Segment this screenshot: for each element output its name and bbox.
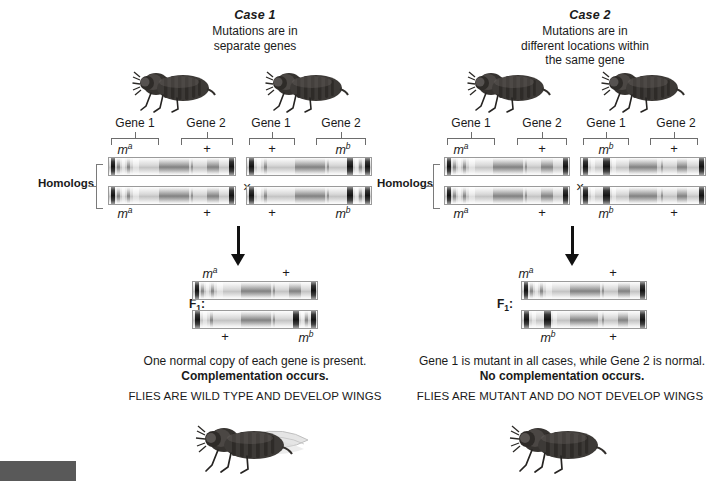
case2-left-gene1-label: Gene 1 — [440, 116, 502, 130]
case2-f1-bottom-allele-gene1: mb — [528, 329, 568, 345]
case1-subtitle-line1: Mutations are in — [130, 24, 380, 39]
footer-color-swatch — [0, 461, 76, 481]
case2-right-gene1-label: Gene 1 — [575, 116, 637, 130]
case1-right-bottom-allele-gene1: + — [252, 205, 292, 220]
case1-left-top-allele-gene2: + — [187, 141, 227, 156]
case1-right-gene2-label: Gene 2 — [310, 116, 372, 130]
case2-left-bottom-allele-gene1: ma — [441, 205, 481, 221]
offspring-fly-case2-wingless — [508, 414, 618, 480]
chromosome-case1-f1-top — [192, 281, 318, 300]
parent-fly-case2-right — [600, 62, 688, 118]
chromosome-case2-f1-bottom — [521, 310, 647, 329]
case2-left-top-allele-gene2: + — [522, 141, 562, 156]
case2-right-top-allele-gene1: mb — [586, 141, 626, 157]
case1-subtitle: Mutations are in separate genes — [130, 24, 380, 53]
case2-f1-top-allele-gene2: + — [593, 265, 633, 280]
figure-canvas: Case 1 Mutations are in separate genes C… — [0, 0, 715, 481]
case1-conclusion: One normal copy of each gene is present.… — [110, 354, 400, 384]
case1-left-bottom-allele-gene1: ma — [105, 205, 145, 221]
chromosome-case2-left-bottom — [444, 186, 570, 205]
parent-fly-case1-right — [264, 62, 352, 118]
case2-f1-bottom-allele-gene2: + — [593, 329, 633, 344]
offspring-fly-case1-winged — [194, 414, 318, 480]
case1-left-gene2-label: Gene 2 — [175, 116, 237, 130]
case1-f1-top-allele-gene2: + — [266, 265, 306, 280]
case2-conclusion-line2: No complementation occurs. — [412, 369, 712, 384]
chromosome-case2-left-top — [444, 157, 570, 176]
case2-left-gene2-label: Gene 2 — [511, 116, 573, 130]
case2-outcome: FLIES ARE MUTANT AND DO NOT DEVELOP WING… — [405, 390, 715, 402]
case2-right-bottom-allele-gene1: mb — [586, 205, 626, 221]
chromosome-case1-f1-bottom — [192, 310, 318, 329]
case2-subtitle: Mutations are in different locations wit… — [455, 24, 715, 68]
case1-right-bottom-allele-gene2: mb — [323, 205, 363, 221]
chromosome-case2-right-bottom — [580, 186, 706, 205]
case2-left-bottom-allele-gene2: + — [522, 205, 562, 220]
case1-left-bottom-allele-gene2: + — [187, 205, 227, 220]
case1-outcome: FLIES ARE WILD TYPE AND DEVELOP WINGS — [110, 390, 400, 402]
case1-f1-top-allele-gene1: ma — [190, 265, 230, 281]
chromosome-case2-right-top — [580, 157, 706, 176]
parent-fly-case2-left — [466, 62, 554, 118]
case1-right-top-allele-gene2: mb — [323, 141, 363, 157]
case2-right-top-allele-gene2: + — [654, 141, 694, 156]
case2-conclusion-line1: Gene 1 is mutant in all cases, while Gen… — [412, 354, 712, 369]
parent-fly-case1-left — [131, 62, 219, 118]
case2-left-top-allele-gene1: ma — [441, 141, 481, 157]
case1-f1-bottom-allele-gene2: mb — [286, 329, 326, 345]
case1-f1-bottom-allele-gene1: + — [205, 329, 245, 344]
homologs-brace-stem-case1 — [89, 186, 97, 187]
chromosome-case1-left-bottom — [108, 186, 236, 205]
case2-f1-top-allele-gene1: ma — [506, 265, 546, 281]
homologs-brace-stem-case2 — [426, 186, 434, 187]
case1-right-gene1-label: Gene 1 — [240, 116, 302, 130]
case1-left-gene1-label: Gene 1 — [104, 116, 166, 130]
case2-right-gene2-label: Gene 2 — [645, 116, 707, 130]
homologs-label-case2: Homologs — [377, 177, 433, 189]
homologs-label-case1: Homologs — [38, 177, 94, 189]
case1-left-top-allele-gene1: ma — [105, 141, 145, 157]
chromosome-case1-right-top — [246, 157, 372, 176]
case1-conclusion-line1: One normal copy of each gene is present. — [110, 354, 400, 369]
case2-title: Case 2 — [465, 8, 715, 22]
chromosome-case1-left-top — [108, 157, 236, 176]
homologs-brace-case2 — [433, 164, 440, 209]
case1-conclusion-line2: Complementation occurs. — [110, 369, 400, 384]
f1-label-case2: F1: — [497, 297, 513, 313]
case2-subtitle-line1: Mutations are in — [455, 24, 715, 39]
case1-right-top-allele-gene1: + — [252, 141, 292, 156]
case1-subtitle-line2: separate genes — [130, 39, 380, 54]
homologs-brace-case1 — [96, 164, 103, 209]
chromosome-case1-right-bottom — [246, 186, 372, 205]
case1-title: Case 1 — [130, 8, 380, 22]
case2-subtitle-line2: different locations within — [455, 39, 715, 54]
chromosome-case2-f1-top — [521, 281, 647, 300]
case2-conclusion: Gene 1 is mutant in all cases, while Gen… — [412, 354, 712, 384]
case2-right-bottom-allele-gene2: + — [654, 205, 694, 220]
